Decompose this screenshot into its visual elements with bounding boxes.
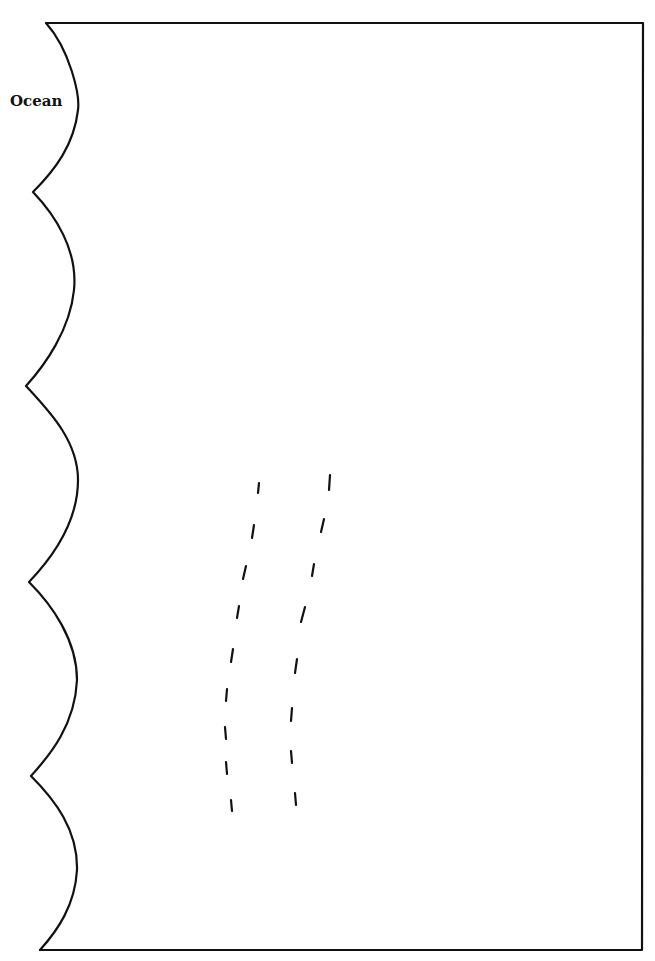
coastline xyxy=(26,23,78,950)
map-border xyxy=(40,23,643,950)
map-outline xyxy=(0,0,655,961)
right-dashed-line xyxy=(291,475,330,805)
left-dashed-line xyxy=(225,483,259,811)
ocean-label: Ocean xyxy=(10,92,62,110)
